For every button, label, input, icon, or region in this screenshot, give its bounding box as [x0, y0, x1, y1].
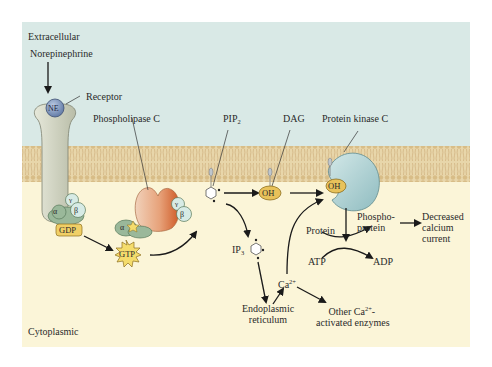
pip2-label: PIP2	[223, 113, 241, 127]
alpha-label-1: α	[53, 206, 57, 217]
extracellular-region	[22, 22, 470, 147]
beta-label-2: β	[180, 209, 184, 220]
dag-label: DAG	[283, 113, 305, 124]
gamma-label-2: γ	[175, 199, 178, 210]
endoplasmic-reticulum-label: Endoplasmicreticulum	[238, 303, 298, 325]
norepinephrine-label: Norepinephrine	[30, 48, 93, 59]
alpha-label-2: α	[120, 222, 124, 233]
pkc-oh-label: OH	[328, 181, 340, 192]
dag-oh-label: OH	[262, 188, 274, 199]
phospholipase-c-label: Phospholipase C	[93, 113, 160, 124]
receptor-label: Receptor	[86, 91, 122, 102]
adp-label: ADP	[373, 256, 393, 267]
phosphoprotein-label: Phospho-protein	[357, 211, 395, 233]
other-enzymes-label: Other Ca2+-activated enzymes	[316, 303, 390, 328]
beta-label-1: β	[74, 205, 78, 216]
ca-label: Ca2+	[278, 276, 296, 290]
ip3-label: IP3	[232, 244, 244, 258]
decreased-calcium-current-label: Decreasedcalciumcurrent	[422, 211, 464, 244]
protein-kinase-c-label: Protein kinase C	[322, 113, 388, 124]
signaling-diagram: Extracellular Norepinephrine NE Receptor…	[0, 0, 492, 367]
cytoplasmic-label: Cytoplasmic	[28, 326, 79, 337]
ne-label: NE	[48, 103, 59, 114]
gtp-label: GTP	[119, 249, 135, 260]
gdp-label: GDP	[59, 225, 76, 236]
extracellular-label: Extracellular	[28, 31, 80, 42]
gamma-label-1: γ	[69, 195, 72, 206]
atp-label: ATP	[308, 256, 326, 267]
plasma-membrane	[22, 146, 470, 182]
protein-label: Protein	[306, 225, 335, 236]
